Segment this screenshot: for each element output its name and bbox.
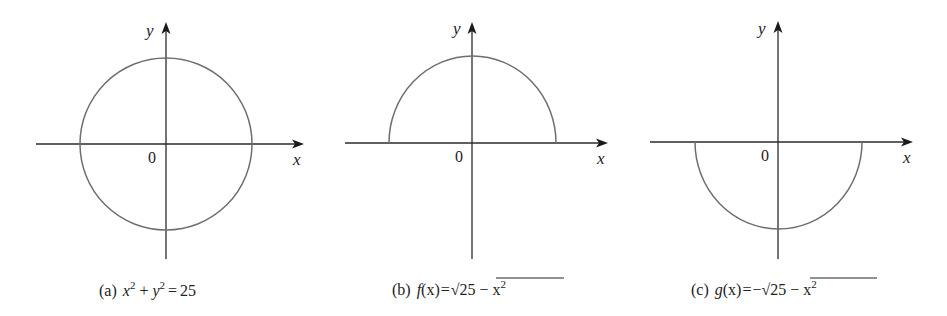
x-axis-label: x	[596, 149, 605, 168]
origin-label: 0	[455, 148, 463, 165]
y-axis-label: y	[451, 19, 461, 38]
panel-c: y x 0 (c)g(x)=−√25 − x2	[650, 19, 913, 299]
y-axis-label: y	[144, 21, 154, 40]
x-axis-label: x	[902, 148, 911, 167]
caption-a: (a)x2+y2=25	[99, 279, 196, 300]
panel-a: y x 0 (a)x2+y2=25	[36, 21, 304, 300]
caption-c: (c)g(x)=−√25 − x2	[691, 278, 817, 299]
panel-b: y x 0 (b)f(x)=√25 − x2	[345, 19, 608, 299]
caption-b: (b)f(x)=√25 − x2	[392, 278, 506, 299]
origin-label: 0	[148, 149, 156, 166]
x-axis-label: x	[292, 150, 301, 169]
y-axis-label: y	[756, 19, 766, 38]
figure-canvas: y x 0 (a)x2+y2=25 y x 0 (b)f(x)=√25 − x2…	[0, 0, 947, 316]
origin-label: 0	[761, 147, 769, 164]
